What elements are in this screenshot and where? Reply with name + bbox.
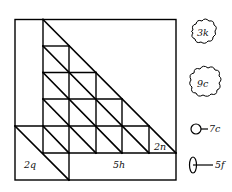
legend-label-3k: 3k [197, 27, 209, 38]
circle-icon [191, 124, 208, 134]
label-5h: 5h [113, 159, 125, 170]
legend-label-9c: 9c [197, 78, 209, 89]
label-2q: 2q [23, 159, 36, 170]
ellipse-icon [190, 157, 214, 173]
diagonal [43, 126, 69, 153]
tiling-diagram: 2q 5h 2n 3k 9c 7c 5f [0, 0, 232, 192]
hypotenuse [43, 20, 176, 154]
legend-label-5f: 5f [215, 159, 226, 170]
legend-label-7c: 7c [209, 123, 221, 134]
label-2n: 2n [153, 141, 166, 152]
